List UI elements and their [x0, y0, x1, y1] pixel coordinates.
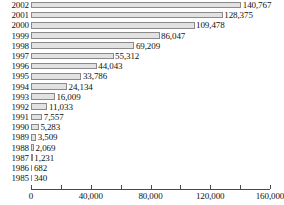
bar-chart: 2002140,7672001128,3752000109,478199986,…	[0, 0, 284, 205]
value-label: 44,043	[98, 61, 122, 71]
bar-track: 24,134	[31, 82, 284, 92]
category-label: 1986	[0, 163, 29, 173]
bar-track: 16,009	[31, 92, 284, 102]
bar-track: 5,283	[31, 122, 284, 132]
bar-track: 128,375	[31, 10, 284, 20]
bar	[31, 93, 55, 100]
bar-row: 199424,134	[0, 82, 284, 92]
category-label: 1988	[0, 143, 29, 153]
bar-track: 3,509	[31, 132, 284, 142]
bar-track: 69,209	[31, 41, 284, 51]
x-axis-tick	[240, 185, 241, 189]
bar-track: 11,033	[31, 102, 284, 112]
x-axis-tick	[31, 185, 32, 189]
bar-track: 340	[31, 173, 284, 183]
value-label: 1,231	[34, 153, 54, 163]
value-label: 11,033	[49, 102, 73, 112]
x-axis-tick-label: 120,000	[196, 191, 225, 202]
category-label: 2001	[0, 10, 29, 20]
bar-track: 86,047	[31, 31, 284, 41]
category-label: 1996	[0, 61, 29, 71]
value-label: 5,283	[40, 122, 60, 132]
x-axis-tick	[61, 185, 62, 189]
value-label: 140,767	[243, 0, 272, 10]
bar-row: 1985340	[0, 173, 284, 183]
bar-row: 2002140,767	[0, 0, 284, 10]
x-axis-tick	[151, 185, 152, 189]
x-axis-tick-label: 160,000	[256, 191, 284, 202]
bar	[31, 165, 32, 172]
x-axis-tick	[91, 185, 92, 189]
bar-row: 2000109,478	[0, 20, 284, 30]
category-label: 1985	[0, 173, 29, 183]
bar-row: 19882,069	[0, 143, 284, 153]
value-label: 16,009	[56, 92, 80, 102]
bar-track: 33,786	[31, 71, 284, 81]
bar	[31, 2, 241, 9]
category-label: 1990	[0, 122, 29, 132]
x-axis: 040,00080,000120,000160,000	[0, 184, 284, 205]
bar-track: 55,312	[31, 51, 284, 61]
category-label: 1993	[0, 92, 29, 102]
x-axis-tick	[270, 185, 271, 189]
bar	[31, 175, 32, 182]
category-label: 1987	[0, 153, 29, 163]
value-label: 2,069	[36, 143, 56, 153]
bar	[31, 144, 34, 151]
bar-row: 199533,786	[0, 71, 284, 81]
bar-row: 19905,283	[0, 122, 284, 132]
bar	[31, 103, 47, 110]
value-label: 69,209	[136, 41, 160, 51]
bar	[31, 42, 134, 49]
bar	[31, 73, 81, 80]
x-axis-tick-label: 40,000	[79, 191, 103, 202]
value-label: 33,786	[83, 71, 107, 81]
value-label: 3,509	[38, 132, 58, 142]
x-axis-tick	[121, 185, 122, 189]
value-label: 7,557	[44, 112, 64, 122]
bar-row: 19871,231	[0, 153, 284, 163]
bar	[31, 134, 36, 141]
bar	[31, 83, 67, 90]
value-label: 128,375	[224, 10, 253, 20]
bar-row: 199986,047	[0, 31, 284, 41]
value-label: 682	[34, 163, 47, 173]
bar-track: 682	[31, 163, 284, 173]
x-axis-line	[31, 189, 270, 190]
bar-track: 140,767	[31, 0, 284, 10]
value-label: 340	[34, 173, 47, 183]
value-label: 55,312	[115, 51, 139, 61]
bar-track: 1,231	[31, 153, 284, 163]
bar-track: 109,478	[31, 20, 284, 30]
category-label: 2002	[0, 0, 29, 10]
category-label: 1998	[0, 41, 29, 51]
bar	[31, 12, 223, 19]
bar-track: 2,069	[31, 143, 284, 153]
bar-row: 19917,557	[0, 112, 284, 122]
category-label: 1997	[0, 51, 29, 61]
bar-row: 19893,509	[0, 132, 284, 142]
category-label: 1992	[0, 102, 29, 112]
bar	[31, 124, 39, 131]
category-label: 2000	[0, 20, 29, 30]
bar-track: 44,043	[31, 61, 284, 71]
value-label: 24,134	[69, 82, 93, 92]
bar-row: 199211,033	[0, 102, 284, 112]
bar-track: 7,557	[31, 112, 284, 122]
x-axis-tick-label: 0	[29, 191, 33, 202]
x-axis-tick-label: 80,000	[138, 191, 162, 202]
bar	[31, 53, 114, 60]
bar	[31, 114, 42, 121]
category-label: 1989	[0, 132, 29, 142]
value-label: 86,047	[161, 31, 185, 41]
bar-row: 199755,312	[0, 51, 284, 61]
bar	[31, 32, 160, 39]
category-label: 1994	[0, 82, 29, 92]
value-label: 109,478	[196, 20, 225, 30]
bar-row: 199316,009	[0, 92, 284, 102]
bar-row: 199644,043	[0, 61, 284, 71]
x-axis-tick	[180, 185, 181, 189]
bar	[31, 22, 195, 29]
category-label: 1991	[0, 112, 29, 122]
bar	[31, 63, 97, 70]
